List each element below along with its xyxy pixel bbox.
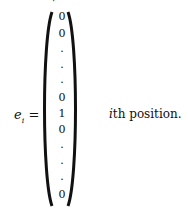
vector-entry: 0	[52, 92, 72, 104]
vector-entry: .	[52, 155, 72, 167]
vector-entry: .	[52, 74, 72, 86]
vector-entry: 0	[52, 189, 72, 201]
vector-entry: .	[52, 43, 72, 55]
vector-symbol: e	[14, 107, 22, 122]
vector-entry: 0	[52, 28, 72, 40]
vector-entry: 1	[52, 108, 72, 120]
vector-entry: .	[52, 59, 72, 71]
annotation-text: th position.	[113, 107, 182, 121]
vector-entry: .	[52, 139, 72, 151]
vector-label: ei =	[14, 107, 39, 125]
vector-entry: 0	[52, 11, 72, 23]
position-annotation: ith position.	[109, 107, 182, 121]
vector-entry: .	[52, 171, 72, 183]
vector-subscript: i	[22, 116, 25, 125]
equals-sign: =	[28, 107, 39, 122]
cropped-previous-line-fragment: ·	[52, 0, 55, 6]
vector-entry: 0	[52, 124, 72, 136]
